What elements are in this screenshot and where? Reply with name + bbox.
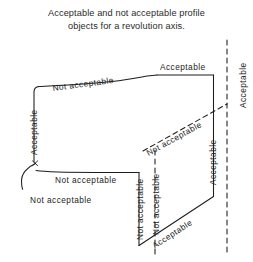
label-inner-vertical-solid: Not acceptable — [136, 178, 144, 240]
bottom-horizontal-edge — [36, 171, 139, 173]
label-bottom-horizontal: Not acceptable — [55, 176, 117, 184]
label-axis-right: Acceptable — [239, 62, 247, 108]
label-left-vertical: Acceptable — [30, 109, 38, 155]
figure-canvas: Acceptable and not acceptable profile ob… — [0, 0, 253, 262]
label-hook-curve: Not acceptable — [30, 196, 92, 204]
label-inner-vertical-dashed: Not acceptable — [152, 173, 160, 235]
label-top-horizontal: Acceptable — [160, 63, 206, 71]
hook-curve-edge — [22, 164, 36, 190]
cross-point-marker — [33, 161, 38, 166]
label-right-vertical-inner: Acceptable — [209, 139, 217, 185]
